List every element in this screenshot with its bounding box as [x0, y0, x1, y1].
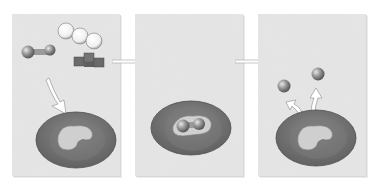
product-sphere-left-icon [278, 80, 291, 93]
enzyme-icon [276, 110, 356, 166]
panel-substrate-approach [12, 14, 120, 176]
product-sphere-right-icon [312, 68, 325, 81]
panel-enzyme-substrate-complex [135, 14, 243, 176]
enzyme-icon [36, 112, 116, 168]
panel-product-release [258, 14, 366, 176]
